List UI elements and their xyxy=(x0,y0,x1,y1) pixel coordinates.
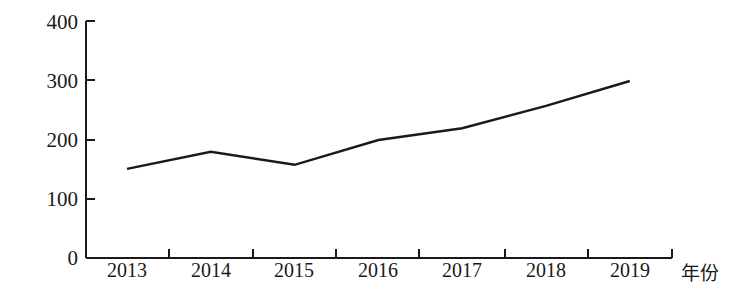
x-tick-label-2013: 2013 xyxy=(85,260,169,280)
y-axis-ticks xyxy=(86,21,95,199)
x-tick-label-2017: 2017 xyxy=(420,260,504,280)
y-axis-title: 进口总量（万吨） xyxy=(2,0,36,34)
chart-figure: 400 300 200 100 0 2013 2014 2015 2016 20… xyxy=(0,0,729,284)
x-tick-label-2015: 2015 xyxy=(252,260,336,280)
y-tick-label-0: 0 xyxy=(18,248,78,269)
x-axis-title: 年份 xyxy=(681,258,719,284)
x-tick-label-2019: 2019 xyxy=(588,260,672,280)
x-tick-label-2014: 2014 xyxy=(169,260,253,280)
y-tick-label-300: 300 xyxy=(18,71,78,92)
x-axis-ticks xyxy=(86,249,672,258)
y-tick-label-100: 100 xyxy=(18,189,78,210)
chart-plot-area xyxy=(0,0,729,284)
x-tick-label-2018: 2018 xyxy=(504,260,588,280)
y-tick-label-200: 200 xyxy=(18,130,78,151)
data-line-series-0 xyxy=(127,81,630,169)
x-tick-label-2016: 2016 xyxy=(336,260,420,280)
